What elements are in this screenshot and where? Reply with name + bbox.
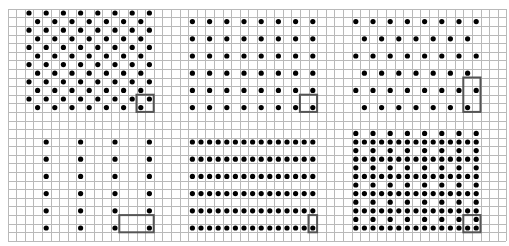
lattice-dot bbox=[87, 53, 92, 58]
lattice-dot bbox=[396, 174, 401, 179]
lattice-dot bbox=[52, 19, 57, 24]
lattice-dot bbox=[379, 36, 384, 41]
lattice-dot bbox=[284, 174, 289, 179]
lattice-dot bbox=[370, 208, 375, 213]
lattice-dot bbox=[112, 139, 117, 144]
lattice-dot bbox=[112, 79, 117, 84]
lattice-dot bbox=[104, 19, 109, 24]
lattice-dot bbox=[439, 225, 444, 230]
lattice-dot bbox=[78, 174, 83, 179]
lattice-dot bbox=[422, 174, 427, 179]
lattice-dot bbox=[241, 71, 246, 76]
lattice-dot bbox=[456, 157, 461, 162]
lattice-dot bbox=[474, 19, 479, 24]
lattice-dot bbox=[370, 174, 375, 179]
lattice-dot bbox=[456, 182, 461, 187]
lattice-dot bbox=[456, 208, 461, 213]
lattice-dot bbox=[310, 191, 315, 196]
lattice-dot bbox=[104, 53, 109, 58]
lattice-dot bbox=[456, 131, 461, 136]
lattice-dot bbox=[250, 225, 255, 230]
lattice-dot bbox=[474, 157, 479, 162]
lattice-dot bbox=[370, 182, 375, 187]
lattice-dot bbox=[353, 157, 358, 162]
lattice-dot bbox=[121, 71, 126, 76]
lattice-dot bbox=[87, 36, 92, 41]
lattice-dot bbox=[276, 71, 281, 76]
lattice-dot bbox=[241, 174, 246, 179]
lattice-dot bbox=[207, 105, 212, 110]
panel-top-middle-square bbox=[190, 19, 317, 112]
lattice-dot bbox=[44, 174, 49, 179]
lattice-dot bbox=[388, 88, 393, 93]
lattice-dot bbox=[396, 139, 401, 144]
lattice-dot bbox=[61, 45, 66, 50]
lattice-dot bbox=[293, 208, 298, 213]
lattice-dot bbox=[431, 105, 436, 110]
lattice-dot bbox=[250, 208, 255, 213]
lattice-dot bbox=[35, 53, 40, 58]
lattice-dot bbox=[78, 79, 83, 84]
lattice-dot bbox=[448, 191, 453, 196]
lattice-dot bbox=[362, 157, 367, 162]
lattice-dot bbox=[448, 139, 453, 144]
lattice-dot bbox=[216, 174, 221, 179]
lattice-dot bbox=[61, 10, 66, 15]
lattice-dot bbox=[474, 182, 479, 187]
lattice-dot bbox=[130, 62, 135, 67]
lattice-dot bbox=[474, 174, 479, 179]
lattice-dot bbox=[78, 191, 83, 196]
lattice-dot bbox=[302, 208, 307, 213]
lattice-dot bbox=[310, 225, 315, 230]
lattice-dot bbox=[405, 217, 410, 222]
lattice-dot bbox=[422, 225, 427, 230]
lattice-dot bbox=[388, 174, 393, 179]
lattice-dot bbox=[241, 36, 246, 41]
lattice-dot bbox=[456, 88, 461, 93]
lattice-dot bbox=[405, 157, 410, 162]
lattice-dot bbox=[26, 62, 31, 67]
lattice-dot bbox=[190, 105, 195, 110]
lattice-dot bbox=[284, 157, 289, 162]
lattice-dot bbox=[198, 139, 203, 144]
lattice-dot bbox=[35, 36, 40, 41]
lattice-dot bbox=[353, 19, 358, 24]
lattice-dot bbox=[216, 139, 221, 144]
lattice-dot bbox=[370, 148, 375, 153]
lattice-dot bbox=[276, 105, 281, 110]
lattice-dot bbox=[396, 191, 401, 196]
lattice-dot bbox=[310, 19, 315, 24]
lattice-dot bbox=[362, 71, 367, 76]
lattice-dot bbox=[216, 208, 221, 213]
lattice-dot bbox=[396, 225, 401, 230]
lattice-dot bbox=[293, 19, 298, 24]
lattice-dot bbox=[310, 53, 315, 58]
lattice-dot bbox=[439, 217, 444, 222]
lattice-dot bbox=[44, 157, 49, 162]
lattice-dot bbox=[87, 71, 92, 76]
lattice-dot bbox=[456, 53, 461, 58]
lattice-dot bbox=[78, 96, 83, 101]
lattice-dot bbox=[379, 208, 384, 213]
lattice-dot bbox=[439, 208, 444, 213]
lattice-dot bbox=[207, 88, 212, 93]
lattice-dot bbox=[456, 174, 461, 179]
lattice-dot bbox=[353, 208, 358, 213]
lattice-dot bbox=[405, 148, 410, 153]
lattice-dot bbox=[26, 28, 31, 33]
lattice-dot bbox=[370, 157, 375, 162]
lattice-dot bbox=[95, 10, 100, 15]
lattice-dot bbox=[465, 105, 470, 110]
lattice-dot bbox=[61, 28, 66, 33]
lattice-dot bbox=[293, 225, 298, 230]
lattice-dot bbox=[456, 191, 461, 196]
lattice-dot bbox=[405, 131, 410, 136]
lattice-dot bbox=[267, 208, 272, 213]
lattice-dot bbox=[370, 225, 375, 230]
lattice-dot bbox=[121, 53, 126, 58]
lattice-dot bbox=[310, 139, 315, 144]
lattice-dot bbox=[422, 148, 427, 153]
lattice-dot bbox=[259, 71, 264, 76]
lattice-dot bbox=[276, 157, 281, 162]
lattice-dot bbox=[448, 71, 453, 76]
